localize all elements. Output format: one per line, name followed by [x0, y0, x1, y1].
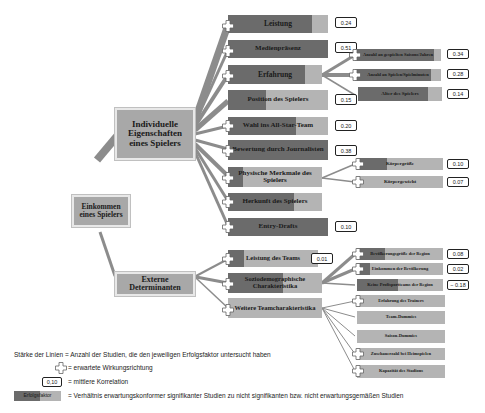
plus-icon [222, 304, 234, 316]
branch-external-node: Externe Determinanten [115, 272, 195, 296]
plus-icon [352, 295, 364, 307]
factor-label: Leistung [262, 20, 294, 28]
plus-icon [352, 176, 364, 188]
factor-stadion: Kapazität des Stadions [357, 365, 445, 378]
correlation-badge: − 0.18 [447, 280, 469, 290]
factor-erfahrung: Erfahrung [228, 65, 322, 84]
plus-icon [222, 145, 234, 157]
plus-icon [222, 221, 234, 233]
factor-label: Kapazität des Stadions [377, 369, 425, 374]
plus-icon [222, 120, 234, 132]
correlation-badge: 0.28 [447, 69, 469, 79]
factor-label: Erfahrung des Trainers [376, 299, 425, 304]
factor-label: Weitere Teamcharakteristika [233, 305, 318, 312]
root-label: Einkommen eines Spielers [74, 203, 128, 219]
factor-label: Herkunft des Spielers [241, 198, 310, 205]
legend-line-strength: Stärke der Linien = Anzahl der Studien, … [14, 351, 271, 358]
factor-spiele: Anzahl an Spielen/Spielminuten [355, 69, 441, 81]
legend-plus-text: = erwartete Wirkungsrichtung [68, 364, 153, 371]
factor-zuschauer: Zuschauerzahl bei Heimspielen [357, 348, 445, 360]
factor-team-dummies: Team-Dummies [357, 311, 445, 324]
plus-icon [352, 263, 364, 275]
factor-label: Leistung des Teams [244, 255, 302, 262]
plus-icon [222, 278, 234, 290]
factor-label: Anzahl an Spielen/Spielminuten [365, 73, 431, 78]
factor-saisons: Anzahl an gespielten Saisons/Jahren [355, 49, 441, 61]
factor-alter: Alter des Spielers [358, 87, 442, 101]
legend-badge-sample: 0,10 [42, 377, 62, 387]
legend-bar-sample: Erfolgsfaktor [14, 391, 61, 401]
correlation-badge: 0.02 [447, 264, 469, 274]
plus-icon [222, 196, 234, 208]
correlation-badge: 0.10 [447, 159, 469, 169]
plus-icon [222, 45, 234, 57]
factor-medienpraesenz: Medienpräsenz [228, 40, 328, 58]
factor-physisch: Physische Merkmale des Spielers [228, 167, 322, 187]
factor-einkommen: Einkommen der Bevölkerung [357, 263, 443, 275]
plus-icon [222, 70, 234, 82]
factor-koerpergroesse: Körpergröße [357, 158, 443, 170]
plus-icon [352, 158, 364, 170]
factor-label: Alter des Spielers [379, 91, 420, 96]
factor-label: Team-Dummies [384, 315, 418, 320]
branch-individual-node: Individuelle Eigenschaften eines Spieler… [115, 108, 195, 160]
factor-label: Körpergröße [384, 161, 416, 166]
plus-icon [349, 49, 361, 61]
correlation-badge: 0.24 [335, 17, 357, 28]
branch-external-label: Externe Determinanten [117, 276, 193, 293]
correlation-badge: 0.38 [335, 145, 357, 156]
correlation-badge: 0.01 [311, 253, 333, 264]
factor-position: Position des Spielers [228, 90, 328, 110]
factor-label: Anzahl an gespielten Saisons/Jahren [361, 53, 435, 58]
factor-journalisten: Bewertung durch Journalisten [228, 140, 328, 160]
legend-bar-text: = Verhältnis erwartungskonformer signifi… [68, 392, 403, 399]
correlation-badge: 0.15 [335, 94, 357, 105]
legend-badge-text: = mittlere Korrelation [68, 378, 128, 385]
factor-label: Zuschauerzahl bei Heimspielen [369, 352, 433, 357]
plus-icon [222, 253, 234, 265]
factor-label: Physische Merkmale des Spielers [228, 170, 322, 185]
correlation-badge: 0.20 [335, 120, 357, 131]
factor-herkunft: Herkunft des Spielers [228, 193, 322, 211]
factor-teamleistung: Leistung des Teams [228, 250, 318, 267]
factor-label: Bewertung durch Journalisten [230, 146, 325, 153]
factor-label: Erfahrung [256, 71, 294, 79]
factor-label: Saison-Dummies [383, 334, 419, 339]
root-node: Einkommen eines Spielers [72, 195, 130, 227]
factor-soziodemographisch: Soziodemographische Charakteristika [228, 273, 322, 293]
correlation-badge: 0.07 [447, 177, 469, 187]
factor-leistung: Leistung [228, 15, 328, 33]
plus-icon [349, 69, 361, 81]
plus-icon [352, 365, 364, 377]
factor-label: Position des Spielers [245, 96, 310, 103]
branch-individual-label: Individuelle Eigenschaften eines Spieler… [117, 120, 193, 148]
factor-label: Bevölkerungsgröße der Region [368, 252, 431, 257]
factor-koerpergewicht: Körpergewicht [357, 176, 443, 188]
factor-label: Keine Profisportteams der Region [365, 283, 434, 288]
factor-allstar: Wahl ins All-Star-Team [228, 117, 328, 135]
plus-icon [352, 248, 364, 260]
correlation-badge: 0.34 [447, 49, 469, 59]
correlation-badge: 0.10 [335, 221, 357, 232]
factor-label: Entry-Drafts [257, 223, 300, 230]
correlation-badge: 0.08 [447, 249, 469, 259]
factor-label: Wahl ins All-Star-Team [241, 122, 315, 129]
factor-trainer: Erfahrung des Trainers [357, 295, 445, 307]
plus-icon [222, 20, 234, 32]
correlation-badge: 0.14 [447, 89, 469, 99]
factor-profisport: Keine Profisportteams der Region [357, 279, 443, 291]
factor-label: Körpergewicht [382, 179, 418, 184]
factor-saison-dummies: Saison-Dummies [357, 330, 445, 343]
plus-icon [222, 172, 234, 184]
factor-label: Soziodemographische Charakteristika [228, 276, 322, 290]
factor-bevoelkerung: Bevölkerungsgröße der Region [357, 248, 443, 260]
plus-icon [352, 348, 364, 360]
factor-label: Medienpräsenz [253, 45, 303, 52]
factor-entry-drafts: Entry-Drafts [228, 218, 328, 236]
plus-icon [55, 362, 67, 374]
factor-weitere-team: Weitere Teamcharakteristika [228, 298, 322, 318]
factor-label: Einkommen der Bevölkerung [370, 267, 431, 272]
